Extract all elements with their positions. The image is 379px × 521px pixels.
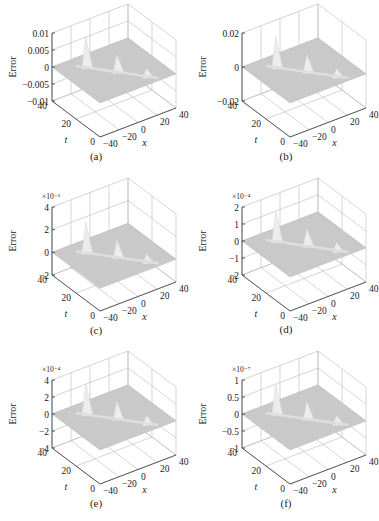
z-exponent-label: ×10⁻⁷ (232, 365, 251, 374)
z-tick-label: −0.5 (222, 427, 239, 437)
z-tick-label: −1 (229, 254, 239, 264)
t-tick-label: 40 (228, 101, 238, 111)
z-tick-label: 2 (44, 393, 49, 403)
x-tick-label: 20 (160, 464, 170, 474)
t-tick-label: 20 (62, 119, 72, 129)
x-tick-label: 40 (179, 457, 189, 467)
z-tick-label: 0 (44, 410, 49, 420)
x-tick-label: 20 (160, 291, 170, 301)
z-tick-label: −0.005 (22, 80, 49, 90)
z-tick-label: 4 (44, 203, 49, 213)
panel-caption: (b) (266, 150, 306, 162)
t-tick-label: 20 (252, 293, 262, 303)
z-tick-label: 4 (44, 376, 49, 386)
z-tick-label: 0 (44, 63, 49, 73)
x-axis-label: x (331, 137, 337, 148)
z-tick-label: 0.02 (222, 29, 239, 39)
x-tick-label: −40 (293, 313, 308, 323)
t-axis-label: t (64, 481, 67, 492)
t-tick-label: 20 (62, 293, 72, 303)
t-axis (52, 101, 100, 137)
x-tick-label: 20 (350, 291, 360, 301)
z-exponent-label: ×10⁻⁴ (42, 365, 61, 374)
x-tick-label: −20 (122, 306, 137, 316)
t-tick-label: 0 (90, 311, 95, 321)
panel-c: 420−2×10⁻³Error40200t−40−2002040x(c) (0, 174, 190, 348)
z-axis-label: Error (197, 56, 208, 78)
panel-caption: (f) (266, 497, 306, 509)
x-tick-label: −40 (103, 139, 118, 149)
x-axis-label: x (331, 311, 337, 322)
surface-plot: 420−2×10⁻³Error40200t−40−2002040x (0, 174, 190, 348)
x-tick-label: −40 (293, 139, 308, 149)
z-exponent-label: ×10⁻⁴ (232, 192, 251, 201)
x-axis-label: x (141, 137, 147, 148)
z-tick-label: 0 (234, 237, 239, 247)
t-tick-label: 40 (228, 275, 238, 285)
panel-caption: (a) (76, 150, 116, 162)
surface-plot: 10.50−0.5−1×10⁻⁷Error40200t−40−2002040x (190, 347, 379, 521)
z-tick-label: 1 (234, 376, 239, 386)
t-axis (242, 275, 290, 311)
x-tick-label: 0 (141, 125, 146, 135)
x-tick-label: −40 (103, 313, 118, 323)
x-tick-label: 20 (160, 117, 170, 127)
x-tick-label: −20 (122, 479, 137, 489)
surface-plot: 0.010.0050−0.005−0.01Error40200t−40−2002… (0, 0, 190, 174)
z-axis-label: Error (7, 56, 18, 78)
t-tick-label: 20 (62, 466, 72, 476)
t-axis-label: t (254, 481, 257, 492)
z-axis-label: Error (197, 230, 208, 252)
z-tick-label: 0.005 (28, 46, 50, 56)
panel-e: 420−2−4×10⁻⁴Error40200t−40−2002040x(e) (0, 347, 190, 521)
z-tick-label: 2 (44, 225, 49, 235)
x-tick-label: 40 (179, 284, 189, 294)
surface-plot: 420−2−4×10⁻⁴Error40200t−40−2002040x (0, 347, 190, 521)
t-tick-label: 0 (90, 137, 95, 147)
x-tick-label: 40 (179, 110, 189, 120)
t-axis-label: t (64, 134, 67, 145)
t-axis (242, 101, 290, 137)
x-tick-label: 40 (369, 284, 379, 294)
panel-a: 0.010.0050−0.005−0.01Error40200t−40−2002… (0, 0, 190, 174)
t-tick-label: 0 (280, 311, 285, 321)
x-tick-label: 40 (369, 110, 379, 120)
t-axis (242, 448, 290, 484)
t-tick-label: 0 (280, 137, 285, 147)
x-tick-label: −20 (312, 132, 327, 142)
t-tick-label: 0 (280, 484, 285, 494)
z-tick-label: 1 (234, 220, 239, 230)
x-tick-label: −20 (312, 306, 327, 316)
x-axis-label: x (141, 311, 147, 322)
x-tick-label: −20 (312, 479, 327, 489)
x-tick-label: 20 (350, 464, 360, 474)
t-axis (52, 448, 100, 484)
z-tick-label: 0 (234, 63, 239, 73)
z-tick-label: 0 (234, 410, 239, 420)
x-tick-label: −40 (293, 486, 308, 496)
z-tick-label: −2 (39, 427, 49, 437)
t-tick-label: 40 (38, 275, 48, 285)
x-tick-label: 20 (350, 117, 360, 127)
z-axis-label: Error (7, 403, 18, 425)
x-tick-label: 0 (331, 299, 336, 309)
x-tick-label: −20 (122, 132, 137, 142)
x-tick-label: 0 (141, 472, 146, 482)
x-tick-label: 0 (141, 299, 146, 309)
panel-caption: (d) (266, 323, 306, 335)
panel-b: 0.020−0.02Error40200t−40−2002040x(b) (190, 0, 379, 174)
z-tick-label: 0 (44, 248, 49, 258)
t-tick-label: 0 (90, 484, 95, 494)
t-tick-label: 20 (252, 466, 262, 476)
panel-d: 210−1−2×10⁻⁴Error40200t−40−2002040x(d) (190, 174, 379, 348)
z-tick-label: 0.5 (227, 393, 239, 403)
surface-plot: 0.020−0.02Error40200t−40−2002040x (190, 0, 379, 174)
panel-caption: (e) (76, 497, 116, 509)
z-axis-label: Error (197, 403, 208, 425)
t-tick-label: 40 (38, 101, 48, 111)
x-tick-label: 40 (369, 457, 379, 467)
z-exponent-label: ×10⁻³ (42, 192, 61, 201)
t-axis-label: t (254, 308, 257, 319)
panel-caption: (c) (76, 324, 116, 336)
x-axis-label: x (331, 484, 337, 495)
